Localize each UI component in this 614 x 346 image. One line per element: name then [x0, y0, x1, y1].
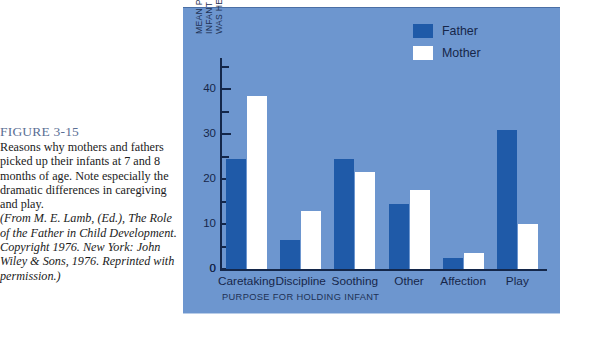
figure-caption-block: FIGURE 3-15 Reasons why mothers and fath…: [0, 124, 178, 283]
x-category-label-other: Other: [394, 274, 424, 288]
figure-panel: Father Mother MEAN PERCENTAGE OF OCCASIO…: [183, 0, 560, 320]
x-category-label-play: Play: [506, 274, 529, 288]
figure-caption-text: Reasons why mothers and fathers picked u…: [0, 140, 178, 211]
bar-affection-mother: [464, 253, 484, 269]
bar-play-father: [497, 130, 517, 269]
bar-play-mother: [518, 224, 538, 269]
bar-other-mother: [410, 190, 430, 269]
bar-discipline-father: [280, 240, 300, 269]
bar-other-father: [389, 204, 409, 269]
bar-caretaking-mother: [247, 96, 267, 269]
bar-affection-father: [443, 258, 463, 269]
figure-caption-source: (From M. E. Lamb, (Ed.), The Role of the…: [0, 211, 178, 282]
panel-top-rule: [183, 0, 560, 7]
y-tick-label-40: 40: [192, 83, 216, 93]
bar-soothing-mother: [355, 172, 375, 269]
y-tick-label-20: 20: [192, 173, 216, 183]
bar-discipline-mother: [301, 211, 321, 269]
bar-series-container: [222, 14, 547, 271]
figure-number: FIGURE 3-15: [0, 124, 178, 139]
bar-caretaking-father: [226, 159, 246, 269]
x-category-label-affection: Affection: [440, 274, 486, 288]
panel-bottom-divider: [183, 313, 560, 314]
x-category-label-soothing: Soothing: [332, 274, 379, 288]
x-category-label-caretaking: Caretaking: [218, 274, 275, 288]
y-axis-title-line1: MEAN PERCENTAGE OF OCCASIONS THAT INFANT: [194, 0, 214, 34]
plot-area: MEAN PERCENTAGE OF OCCASIONS THAT INFANT…: [220, 14, 550, 276]
y-tick-label-30: 30: [192, 128, 216, 138]
x-category-label-discipline: Discipline: [275, 274, 325, 288]
y-tick-label-0: 0: [192, 263, 216, 273]
y-tick-label-10: 10: [192, 218, 216, 228]
panel-top-divider: [183, 7, 560, 8]
bar-soothing-father: [334, 159, 354, 269]
panel-bottom-rule: [183, 314, 560, 320]
y-axis-title: MEAN PERCENTAGE OF OCCASIONS THAT INFANT…: [194, 0, 224, 34]
x-axis-title: PURPOSE FOR HOLDING INFANT: [222, 292, 379, 302]
